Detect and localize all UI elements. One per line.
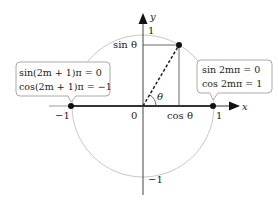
y-axis-arrow-icon: [139, 13, 148, 24]
unit-circle-diagram: y x 1 −1 −1 1 0 sin θ cos θ θ sin(2m + 1…: [0, 0, 278, 206]
x-tick-minus-one: −1: [55, 110, 70, 121]
theta-label: θ: [157, 91, 163, 102]
x-tick-one: 1: [216, 110, 222, 121]
right-callout-line1: sin 2mπ = 0: [202, 64, 260, 75]
point-one: [210, 103, 216, 109]
point-on-circle: [176, 42, 182, 48]
y-tick-minus-one: −1: [148, 174, 163, 185]
y-axis-label: y: [149, 11, 156, 22]
x-axis-label: x: [242, 101, 248, 112]
origin-label: 0: [131, 110, 137, 121]
y-tick-one: 1: [148, 25, 154, 36]
cos-theta-label: cos θ: [167, 110, 193, 121]
sin-theta-label: sin θ: [113, 39, 137, 50]
point-minus-one: [68, 103, 74, 109]
left-callout-line1: sin(2m + 1)π = 0: [19, 67, 102, 78]
angle-arc: [150, 95, 156, 106]
x-axis-arrow-icon: [229, 102, 240, 111]
right-callout-line2: cos 2mπ = 1: [202, 78, 262, 89]
left-callout-line2: cos(2m + 1)π = −1: [19, 81, 112, 92]
